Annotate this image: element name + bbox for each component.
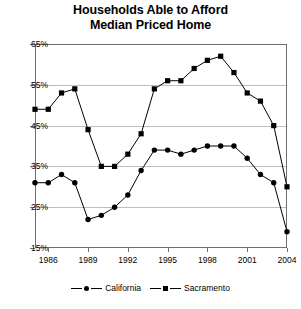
- x-axis-tick: [168, 248, 169, 252]
- legend-line: [71, 288, 82, 289]
- legend-label: Sacramento: [183, 283, 230, 293]
- x-axis-label: 1998: [187, 256, 227, 265]
- x-axis-label: 1992: [108, 256, 148, 265]
- legend-line: [91, 288, 102, 289]
- y-axis-label: 55%: [16, 81, 48, 90]
- legend-marker-square: [163, 286, 168, 291]
- y-axis-label: 45%: [16, 122, 48, 131]
- y-axis-label: 35%: [16, 162, 48, 171]
- chart-container: Households Able to Afford Median Priced …: [0, 0, 301, 309]
- x-axis-tick: [247, 248, 248, 252]
- x-axis-tick: [48, 248, 49, 252]
- gridline: [36, 166, 286, 167]
- gridline: [36, 207, 286, 208]
- x-axis-tick: [287, 248, 288, 252]
- legend-marker-circle: [84, 286, 89, 291]
- chart-title: Households Able to Afford Median Priced …: [0, 3, 301, 32]
- legend-line: [150, 288, 161, 289]
- x-axis-tick: [207, 248, 208, 252]
- chart-title-line-1: Households Able to Afford: [0, 3, 301, 18]
- chart-legend: CaliforniaSacramento: [0, 283, 301, 293]
- x-axis-label: 2004: [267, 256, 301, 265]
- legend-label: California: [104, 283, 141, 293]
- y-axis-label: 65%: [16, 40, 48, 49]
- x-axis-label: 1986: [28, 256, 68, 265]
- x-axis-tick: [88, 248, 89, 252]
- gridline: [36, 126, 286, 127]
- legend-item-california[interactable]: California: [71, 283, 141, 293]
- legend-line: [170, 288, 181, 289]
- legend-item-sacramento[interactable]: Sacramento: [150, 283, 230, 293]
- y-axis-label: 25%: [16, 203, 48, 212]
- chart-title-line-2: Median Priced Home: [0, 18, 301, 33]
- x-axis-tick: [128, 248, 129, 252]
- x-axis-label: 2001: [227, 256, 267, 265]
- x-axis-label: 1995: [148, 256, 188, 265]
- x-axis-label: 1989: [68, 256, 108, 265]
- gridline: [36, 85, 286, 86]
- plot-area: [35, 44, 287, 248]
- y-axis-label: 15%: [16, 244, 48, 253]
